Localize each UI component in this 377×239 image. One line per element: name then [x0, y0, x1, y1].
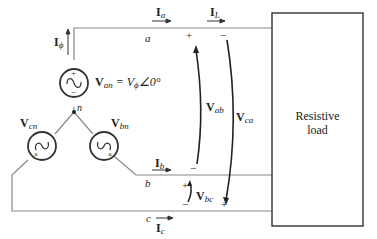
vab-arrowhead: [193, 45, 199, 53]
svg-text:+: +: [71, 68, 76, 78]
wire-c: [12, 160, 272, 211]
wire-n-to-cn: [55, 112, 74, 134]
svg-text:×: ×: [108, 151, 112, 158]
vab-minus: −: [190, 163, 196, 174]
label-v-bn: Vbn: [111, 117, 129, 131]
vca-plus: +: [221, 199, 227, 210]
label-i-l: IL: [210, 6, 220, 20]
label-v-ca: Vca: [236, 111, 253, 125]
label-i-b: Ib: [155, 157, 164, 171]
label-i-phi: Iϕ: [54, 36, 63, 50]
voltage-arrows: [188, 40, 233, 202]
label-v-bc: Vbc: [196, 190, 213, 204]
svg-text:−: −: [71, 87, 76, 97]
label-i-a: Ia: [156, 6, 165, 20]
wire-a: [74, 28, 272, 60]
vbc-minus: −: [182, 199, 188, 210]
label-v-ab: Vab: [206, 101, 224, 115]
vca-arrow: [226, 40, 233, 200]
vab-arrow: [196, 50, 201, 164]
neutral-node: [72, 110, 76, 114]
node-label-a: a: [145, 33, 151, 44]
source-bn: ×: [90, 132, 118, 160]
load-label: Resistive load: [272, 109, 363, 137]
vbc-plus: +: [182, 180, 188, 191]
svg-text:×: ×: [34, 151, 38, 158]
label-v-an: Van = Vϕ∠0°: [95, 76, 161, 90]
vab-plus: +: [186, 30, 192, 41]
wire-n-to-bn: [74, 112, 93, 134]
label-v-cn: Vcn: [20, 117, 37, 131]
node-label-n: n: [77, 103, 82, 113]
node-label-b: b: [145, 178, 151, 189]
source-an: + −: [60, 68, 88, 97]
node-label-c: c: [146, 213, 151, 224]
source-cn: ×: [28, 132, 56, 160]
vca-minus: −: [220, 30, 226, 41]
label-i-c: Ic: [156, 222, 165, 236]
